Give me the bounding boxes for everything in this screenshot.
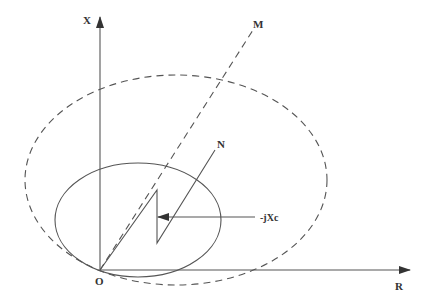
- impedance-diagram: X R O M N -jXc: [0, 0, 429, 303]
- zigzag-impedance-path: [100, 150, 215, 270]
- m-label: M: [253, 18, 264, 30]
- om-dashed-line: [100, 30, 253, 270]
- x-axis-label: X: [83, 14, 91, 26]
- origin-label: O: [95, 275, 104, 287]
- r-axis-label: R: [395, 280, 404, 292]
- jxc-label: -jXc: [260, 212, 279, 223]
- n-label: N: [217, 138, 225, 150]
